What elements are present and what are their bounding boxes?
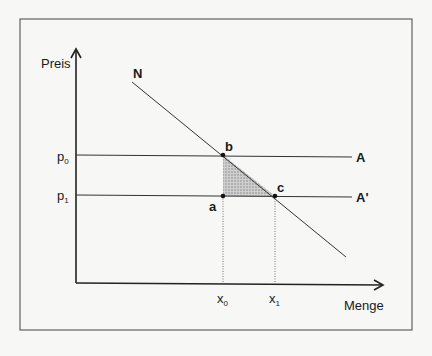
y-axis-label: Preis <box>41 56 71 71</box>
supply-line-a-prime <box>76 195 352 197</box>
supply-line-a <box>76 155 352 157</box>
label-c: c <box>277 180 284 195</box>
qty-x0: x0 <box>217 291 229 308</box>
welfare-triangle <box>223 155 275 196</box>
label-a: a <box>209 199 217 214</box>
point-a <box>221 194 226 199</box>
supply-label-a-prime: A' <box>356 190 368 205</box>
x-axis <box>76 283 383 285</box>
label-b: b <box>225 139 233 154</box>
qty-x1: x1 <box>269 291 281 308</box>
demand-label: N <box>133 66 142 81</box>
price-p0: p0 <box>57 149 69 166</box>
supply-label-a: A <box>356 150 366 165</box>
demand-curve <box>132 82 346 257</box>
x-axis-label: Menge <box>344 298 384 313</box>
price-quantity-diagram: Preis Menge N A A' b a c p0 p1 x0 x1 <box>0 0 432 356</box>
price-p1: p1 <box>57 188 69 205</box>
